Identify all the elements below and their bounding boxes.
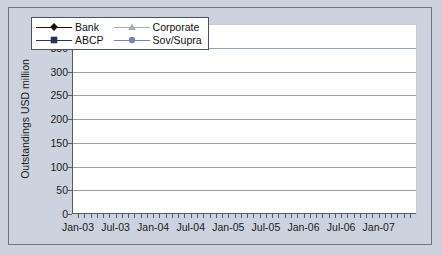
x-axis-tick xyxy=(159,214,160,218)
x-axis-tick xyxy=(260,214,261,218)
x-axis-tick xyxy=(310,214,311,218)
x-axis-tick xyxy=(235,214,236,218)
x-axis-tick xyxy=(216,214,217,218)
y-axis-tick xyxy=(68,190,72,191)
x-axis-tick xyxy=(391,214,392,218)
legend-label-abcp: ABCP xyxy=(75,34,104,46)
y-axis-tick xyxy=(68,72,72,73)
x-axis-tick xyxy=(109,214,110,218)
x-axis-tick xyxy=(191,214,192,218)
legend-swatch-abcp xyxy=(36,36,72,45)
legend-swatch-sovsupra xyxy=(114,36,150,45)
x-axis-tick xyxy=(253,214,254,218)
x-axis-tick xyxy=(272,214,273,218)
x-axis-tick-label: Jan-06 xyxy=(287,221,319,233)
x-axis-tick xyxy=(153,214,154,218)
x-axis-tick xyxy=(410,214,411,218)
y-axis-tick-label: 300 xyxy=(8,66,68,78)
legend-item-corporate: Corporate xyxy=(114,21,202,33)
x-axis-tick xyxy=(329,214,330,218)
x-axis-tick xyxy=(297,214,298,218)
legend-swatch-corporate xyxy=(114,23,150,32)
x-axis-tick-label: Jul-04 xyxy=(176,221,205,233)
legend-swatch-bank xyxy=(36,23,72,32)
x-axis-tick xyxy=(78,214,79,218)
gridline xyxy=(73,119,417,120)
x-axis-tick xyxy=(222,214,223,218)
legend-item-abcp: ABCP xyxy=(36,34,104,46)
gridline xyxy=(73,190,417,191)
legend-item-bank: Bank xyxy=(36,21,104,33)
gridline xyxy=(73,143,417,144)
y-axis-tick-label: 150 xyxy=(8,137,68,149)
x-axis-tick xyxy=(397,214,398,218)
x-axis-tick xyxy=(316,214,317,218)
x-axis-tick xyxy=(116,214,117,218)
y-axis-tick xyxy=(68,95,72,96)
x-axis-tick-label: Jul-06 xyxy=(327,221,356,233)
x-axis-tick xyxy=(266,214,267,218)
x-axis-tick xyxy=(128,214,129,218)
x-axis-tick-label: Jul-03 xyxy=(101,221,130,233)
y-axis-tick-label: 0 xyxy=(8,208,68,220)
legend-item-sovsupra: Sov/Supra xyxy=(114,34,202,46)
x-axis-tick xyxy=(372,214,373,218)
x-axis-tick xyxy=(147,214,148,218)
x-axis-tick xyxy=(379,214,380,218)
line-chart: Outstandings USD million Bank Corporate xyxy=(9,8,433,246)
x-axis-tick-label: Jan-04 xyxy=(137,221,169,233)
x-axis-tick xyxy=(141,214,142,218)
x-axis-tick xyxy=(172,214,173,218)
chart-legend: Bank Corporate ABCP xyxy=(31,17,209,50)
x-axis-tick xyxy=(285,214,286,218)
y-axis-tick xyxy=(68,167,72,168)
x-axis-tick-label: Jan-03 xyxy=(62,221,94,233)
x-axis-tick xyxy=(134,214,135,218)
gridline xyxy=(73,72,417,73)
x-axis-tick xyxy=(97,214,98,218)
x-axis-tick xyxy=(360,214,361,218)
x-axis-tick xyxy=(203,214,204,218)
y-axis-tick-label: 200 xyxy=(8,113,68,125)
legend-label-bank: Bank xyxy=(75,21,99,33)
y-axis-tick xyxy=(68,119,72,120)
gridline xyxy=(73,95,417,96)
x-axis-tick xyxy=(228,214,229,218)
x-axis-tick xyxy=(341,214,342,218)
x-axis-tick xyxy=(347,214,348,218)
x-axis-tick xyxy=(291,214,292,218)
gridline xyxy=(73,167,417,168)
x-axis-tick xyxy=(122,214,123,218)
x-axis-tick-label: Jul-05 xyxy=(252,221,281,233)
plot-area xyxy=(72,24,417,214)
legend-label-corporate: Corporate xyxy=(153,21,200,33)
x-axis-tick xyxy=(91,214,92,218)
x-axis-tick xyxy=(278,214,279,218)
x-axis-tick-label: Jan-05 xyxy=(212,221,244,233)
x-axis-tick xyxy=(322,214,323,218)
x-axis-tick xyxy=(304,214,305,218)
legend-label-sovsupra: Sov/Supra xyxy=(153,34,202,46)
x-axis-tick xyxy=(84,214,85,218)
x-axis-tick xyxy=(103,214,104,218)
figure-frame: Outstandings USD million Bank Corporate xyxy=(8,7,432,245)
x-axis-tick-label: Jan-07 xyxy=(363,221,395,233)
x-axis-tick xyxy=(354,214,355,218)
y-axis-tick xyxy=(68,143,72,144)
x-axis-tick xyxy=(335,214,336,218)
x-axis-tick xyxy=(210,214,211,218)
x-axis-tick xyxy=(366,214,367,218)
x-axis-tick xyxy=(404,214,405,218)
x-axis-tick xyxy=(385,214,386,218)
x-axis-tick xyxy=(178,214,179,218)
x-axis-tick xyxy=(166,214,167,218)
y-axis-tick xyxy=(68,214,72,215)
x-axis-tick xyxy=(197,214,198,218)
x-axis-tick xyxy=(241,214,242,218)
y-axis-tick-label: 250 xyxy=(8,89,68,101)
x-axis-tick xyxy=(184,214,185,218)
y-axis-tick-label: 50 xyxy=(8,184,68,196)
x-axis-tick xyxy=(247,214,248,218)
y-axis-tick-label: 100 xyxy=(8,161,68,173)
